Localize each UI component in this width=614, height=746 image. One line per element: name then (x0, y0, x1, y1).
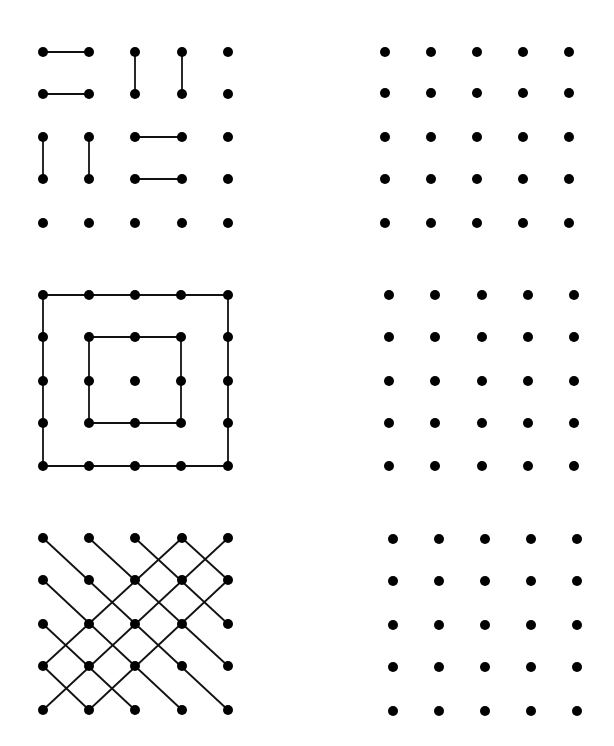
grid-dot (84, 89, 94, 99)
grid-dot (177, 575, 187, 585)
grid-dot (564, 218, 574, 228)
grid-dot (426, 174, 436, 184)
grid-dot (38, 89, 48, 99)
grid-dot (526, 662, 536, 672)
grid-dot (223, 47, 233, 57)
grid-dot (477, 461, 487, 471)
grid-dot (177, 47, 187, 57)
grid-dot (518, 218, 528, 228)
grid-dot (38, 661, 48, 671)
grid-dot (523, 418, 533, 428)
grid-dot (434, 534, 444, 544)
grid-dot (38, 418, 48, 428)
grid-dot (130, 619, 140, 629)
grid-dot (38, 290, 48, 300)
grid-dot (177, 661, 187, 671)
grid-dot (223, 418, 233, 428)
grid-dot (84, 575, 94, 585)
grid-dot (523, 461, 533, 471)
grid-dot (176, 461, 186, 471)
grid-dot (130, 89, 140, 99)
grid-dot (384, 461, 394, 471)
grid-dot (380, 88, 390, 98)
grid-dot (176, 376, 186, 386)
grid-dot (526, 534, 536, 544)
grid-dot (480, 576, 490, 586)
grid-dot (518, 174, 528, 184)
grid-dot (84, 174, 94, 184)
grid-dot (84, 661, 94, 671)
grid-dot (130, 290, 140, 300)
grid-dot (477, 418, 487, 428)
grid-dot (526, 706, 536, 716)
grid-dot (130, 661, 140, 671)
grid-dot (526, 576, 536, 586)
grid-dot (523, 332, 533, 342)
grid-dots (380, 47, 574, 228)
grid-dot (477, 332, 487, 342)
grid-dot (38, 332, 48, 342)
grid-dot (430, 376, 440, 386)
dot-grid-top-left (38, 47, 233, 228)
grid-dot (177, 132, 187, 142)
grid-dot (84, 47, 94, 57)
grid-dot (223, 174, 233, 184)
grid-dot (472, 47, 482, 57)
grid-dot (569, 290, 579, 300)
grid-dot (84, 705, 94, 715)
dot-grid-middle-right (384, 290, 579, 471)
grid-dot (388, 706, 398, 716)
grid-dot (426, 132, 436, 142)
grid-dot (564, 47, 574, 57)
grid-dot (480, 662, 490, 672)
grid-dot (569, 376, 579, 386)
grid-dot (223, 619, 233, 629)
grid-dot (384, 290, 394, 300)
grid-dot (569, 418, 579, 428)
grid-dot (518, 47, 528, 57)
grid-dot (480, 706, 490, 716)
grid-dot (84, 290, 94, 300)
grid-dot (380, 132, 390, 142)
grid-dot (130, 132, 140, 142)
grid-dot (572, 576, 582, 586)
grid-dot (177, 533, 187, 543)
grid-dot (434, 706, 444, 716)
dot-grid-bottom-right (388, 534, 582, 716)
grid-dot (176, 290, 186, 300)
grid-dot (84, 533, 94, 543)
grid-dot (480, 534, 490, 544)
grid-dot (130, 418, 140, 428)
grid-dot (38, 174, 48, 184)
grid-dot (572, 620, 582, 630)
grid-dot (130, 218, 140, 228)
grid-dot (384, 376, 394, 386)
grid-dot (434, 620, 444, 630)
grid-lines (43, 52, 182, 179)
grid-dot (472, 218, 482, 228)
dot-grid-middle-left (38, 290, 233, 471)
grid-dot (38, 575, 48, 585)
grid-dot (426, 218, 436, 228)
grid-dot (130, 376, 140, 386)
grid-dot (223, 290, 233, 300)
grid-dot (380, 174, 390, 184)
grid-dot (84, 619, 94, 629)
grid-dot (223, 218, 233, 228)
grid-dot (38, 533, 48, 543)
grid-dot (477, 290, 487, 300)
grid-dot (223, 89, 233, 99)
grid-dot (223, 376, 233, 386)
grid-dot (177, 705, 187, 715)
grid-dot (223, 705, 233, 715)
grid-dot (472, 132, 482, 142)
dot-grid-figure (0, 0, 614, 746)
grid-dot (434, 576, 444, 586)
grid-dot (430, 332, 440, 342)
grid-dot (526, 620, 536, 630)
grid-dot (84, 332, 94, 342)
grid-dot (38, 705, 48, 715)
grid-dots (38, 290, 233, 471)
grid-dot (569, 332, 579, 342)
grid-dot (572, 534, 582, 544)
